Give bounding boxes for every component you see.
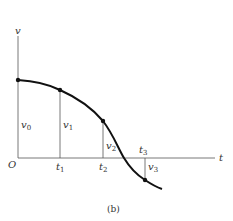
velocity-time-diagram: v t O v0 v1 v2 v3 t1 t2 t3 (b)	[0, 0, 233, 221]
v0-label: v0	[21, 119, 31, 132]
velocity-curve	[18, 80, 162, 189]
v3-label: v3	[148, 161, 158, 174]
t1-label: t1	[56, 161, 65, 174]
figure-caption: (b)	[107, 204, 120, 214]
point-v3	[143, 178, 147, 182]
point-v0	[16, 78, 20, 82]
point-v2	[101, 119, 105, 123]
v1-label: v1	[63, 119, 73, 132]
t2-label: t2	[99, 161, 108, 174]
t3-label: t3	[139, 144, 148, 157]
v-axis-label: v	[15, 25, 21, 36]
point-v1	[58, 88, 62, 92]
t-axis-label: t	[219, 152, 224, 163]
origin-label: O	[8, 159, 16, 170]
